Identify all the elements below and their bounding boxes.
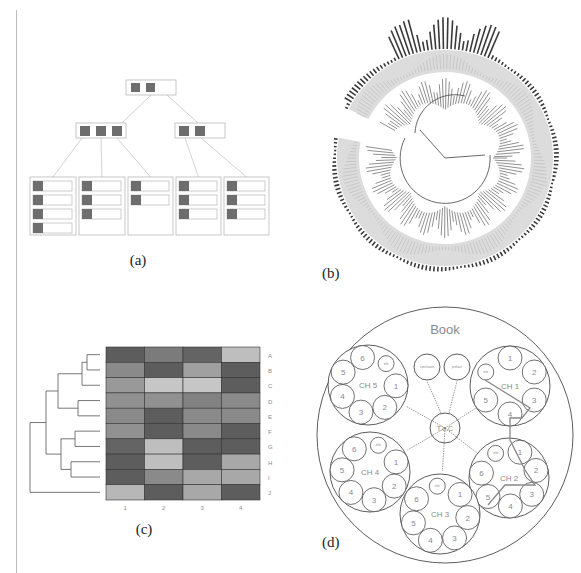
tree-leaf-branch (384, 191, 406, 210)
chapter-label: CH 1 (501, 382, 520, 391)
tree-leaf-branch (447, 208, 448, 237)
heatmap-cell (222, 378, 261, 393)
btree-key (131, 181, 141, 191)
heatmap-cell (183, 378, 222, 393)
section-label: 3 (529, 490, 534, 499)
tree-leaf-branch (484, 106, 506, 125)
row-label: B (268, 368, 272, 374)
tree-leaf-branch (470, 210, 473, 217)
heatmap-cell (222, 485, 261, 500)
outer-bar (513, 243, 515, 245)
heatmap-cell (145, 439, 184, 454)
heatmap-cell (183, 439, 222, 454)
heatmap-cell (183, 393, 222, 408)
outer-bar (527, 230, 530, 232)
outer-bar (366, 237, 369, 241)
row-label: G (268, 444, 273, 450)
tree-leaf-branch (499, 168, 523, 172)
section-label: 1 (458, 490, 463, 499)
outer-bar (525, 81, 528, 84)
tree-leaf-branch (497, 149, 524, 152)
btree-key (227, 209, 237, 219)
tree-leaf-branch (476, 92, 490, 112)
btree-edge (185, 138, 199, 177)
outer-bar (532, 90, 536, 93)
outer-bar (336, 188, 341, 189)
tree-leaf-branch (500, 141, 511, 144)
tree-leaf-branch (367, 150, 393, 153)
outer-bar (514, 71, 516, 73)
outer-bar (530, 87, 534, 90)
outer-bar (334, 181, 339, 182)
outer-bar (552, 180, 555, 181)
section-label: 4 (340, 392, 345, 401)
tree-leaf-branch (376, 178, 391, 184)
section-label: 3 (532, 396, 537, 405)
tree-leaf-branch (452, 211, 453, 222)
heatmap-cell (145, 454, 184, 469)
btree-key (227, 181, 237, 191)
heatmap-cell (145, 408, 184, 423)
outer-bar (342, 203, 345, 205)
heatmap-cell (106, 393, 145, 408)
chapter-label: CH 3 (431, 510, 450, 519)
btree-key (179, 126, 189, 136)
outer-bar (539, 100, 543, 102)
page-margin-rule (16, 10, 17, 573)
outer-bar (462, 41, 463, 50)
outer-bar (377, 67, 380, 71)
outer-bar (517, 73, 519, 76)
row-label: J (268, 490, 271, 496)
outer-bar (408, 20, 417, 53)
btree-diagram: (a) (20, 60, 290, 320)
tree-leaf-branch (463, 213, 470, 234)
section-label: info (483, 370, 488, 374)
tree-leaf-branch (420, 213, 427, 233)
outer-bar (508, 67, 509, 69)
outer-bar (552, 137, 556, 138)
btree-edge (117, 138, 151, 177)
heatmap-cell (222, 408, 261, 423)
tree-leaf-branch (491, 188, 499, 193)
outer-bar (426, 265, 427, 270)
outer-bar (375, 244, 378, 248)
btree-key (179, 181, 189, 191)
tree-leaf-branch (500, 139, 507, 141)
chapter-label: CH 5 (359, 381, 378, 390)
outer-bar (548, 122, 550, 123)
top-node-label: preface (452, 365, 462, 369)
tree-leaf-branch (477, 202, 490, 221)
tree-leaf-branch (466, 91, 471, 104)
outer-bar (411, 262, 412, 266)
section-label: 2 (532, 368, 537, 377)
tree-leaf-branch (382, 175, 390, 178)
outer-bar (333, 173, 338, 174)
tree-leaf-branch (494, 122, 506, 129)
outer-bar (404, 259, 405, 262)
tree-leaf-branch (455, 212, 457, 226)
outer-bar (370, 71, 374, 75)
outer-bar (379, 246, 382, 250)
outer-bar (510, 246, 512, 249)
outer-bar (423, 42, 425, 51)
section-label: 4 (508, 502, 513, 511)
outer-bar (384, 63, 386, 66)
outer-bar (529, 227, 532, 230)
panel-c-heatmap: ABCDEFGHIJ1234(c) (20, 320, 290, 550)
tree-leaf-branch (385, 187, 396, 194)
heatmap-cell (222, 469, 261, 484)
top-node-label: conclusion (420, 365, 435, 369)
outer-bar (500, 252, 502, 256)
btree-key (195, 126, 205, 136)
section-label: info (435, 484, 440, 488)
section-label: 4 (428, 536, 433, 545)
outer-bar (549, 191, 552, 192)
tree-leaf-branch (471, 97, 476, 107)
section-label: 6 (352, 445, 357, 454)
tree-leaf-branch (400, 95, 414, 114)
tree-leaf-branch (469, 99, 472, 105)
heatmap-cell (183, 362, 222, 377)
heatmap-cell (145, 485, 184, 500)
btree-edge (53, 138, 82, 177)
section-label: 6 (414, 495, 419, 504)
